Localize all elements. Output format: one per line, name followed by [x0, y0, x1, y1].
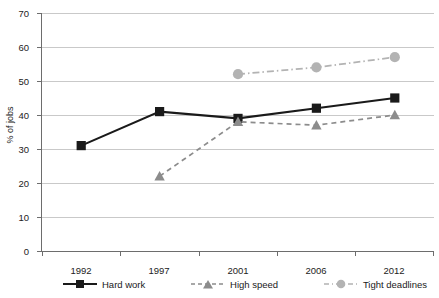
- x-tick-mark-3: [277, 251, 278, 256]
- x-tick-mark-end: [433, 251, 434, 256]
- y-tick-label-60: 60: [18, 42, 29, 53]
- y-tick-label-30: 30: [18, 144, 29, 155]
- y-tick-label-50: 50: [18, 76, 29, 87]
- data-point-hard-work-2012[interactable]: [390, 93, 399, 102]
- y-tick-label-10: 10: [18, 212, 29, 223]
- legend-swatch-tight-deadlines: [324, 278, 358, 290]
- data-point-tight-deadlines-2001[interactable]: [233, 69, 243, 79]
- y-tick-label-20: 20: [18, 178, 29, 189]
- y-axis-label: % of jobs: [5, 85, 15, 165]
- legend-swatch-hard-work: [63, 278, 97, 290]
- data-point-hard-work-1992[interactable]: [77, 141, 86, 150]
- y-tick-label-40: 40: [18, 110, 29, 121]
- plot-area: 70 60 50 40 30 20 10 0: [41, 13, 434, 252]
- x-tick-mark-4: [355, 251, 356, 256]
- data-point-hard-work-2006[interactable]: [312, 104, 321, 113]
- legend-label-tight-deadlines: Tight deadlines: [363, 279, 427, 290]
- data-point-hard-work-1997[interactable]: [155, 107, 164, 116]
- legend-item-high-speed[interactable]: High speed: [191, 278, 278, 290]
- legend-label-hard-work: Hard work: [102, 279, 145, 290]
- series-layer: [42, 13, 434, 251]
- y-tick-label-0: 0: [24, 246, 29, 257]
- legend-item-hard-work[interactable]: Hard work: [63, 278, 145, 290]
- data-point-high-speed-2006[interactable]: [311, 120, 321, 129]
- legend-item-tight-deadlines[interactable]: Tight deadlines: [324, 278, 427, 290]
- x-tick-mark-start: [42, 251, 43, 256]
- legend-swatch-high-speed: [191, 278, 225, 290]
- series-line-high-speed: [160, 115, 395, 176]
- x-tick-mark-1: [120, 251, 121, 256]
- data-point-tight-deadlines-2006[interactable]: [311, 62, 321, 72]
- legend-label-high-speed: High speed: [230, 279, 278, 290]
- line-chart: % of jobs 70 60 50 40 30 20 10: [0, 0, 439, 298]
- data-point-tight-deadlines-2012[interactable]: [390, 52, 400, 62]
- data-point-high-speed-2012[interactable]: [390, 110, 400, 119]
- y-tick-label-70: 70: [18, 8, 29, 19]
- x-tick-mark-2: [199, 251, 200, 256]
- data-point-high-speed-1997[interactable]: [154, 171, 164, 180]
- chart-legend: Hard work High speed Tight deadlines: [41, 274, 433, 294]
